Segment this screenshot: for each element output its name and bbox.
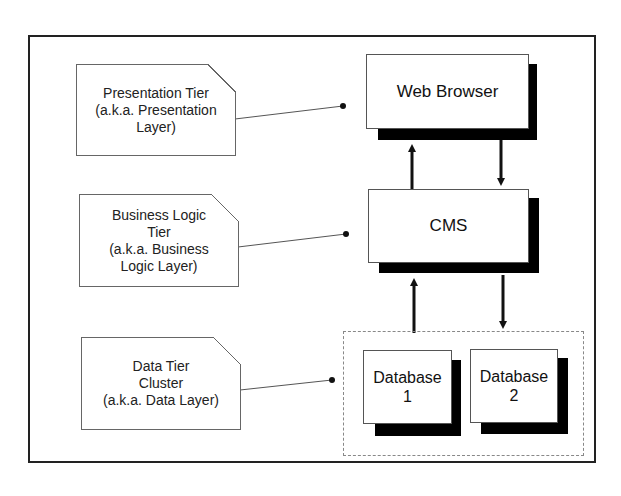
- database1-number: 1: [373, 387, 442, 406]
- database2-label: Database: [480, 367, 549, 386]
- business-connector: [238, 234, 346, 247]
- database2-box: Database 2: [470, 349, 558, 423]
- cms-label: CMS: [430, 216, 468, 236]
- cms-box: CMS: [368, 189, 529, 263]
- database1-box: Database 1: [363, 350, 452, 424]
- note-line: Layer): [95, 119, 216, 136]
- note-line: Presentation Tier: [95, 85, 216, 102]
- note-line: Data Tier: [103, 358, 219, 375]
- business-logic-tier-note: Business Logic Tier (a.k.a. Business Log…: [79, 194, 239, 287]
- presentation-connector: [235, 106, 343, 119]
- note-line: (a.k.a. Presentation: [95, 102, 216, 119]
- web-browser-label: Web Browser: [397, 82, 499, 102]
- note-line: Tier: [109, 224, 209, 241]
- note-line: Business Logic: [109, 207, 209, 224]
- data-connector: [240, 380, 332, 390]
- database2-number: 2: [480, 386, 549, 405]
- note-line: (a.k.a. Business: [109, 241, 209, 258]
- database1-label: Database: [373, 368, 442, 387]
- data-tier-note: Data Tier Cluster (a.k.a. Data Layer): [81, 337, 241, 430]
- note-line: Logic Layer): [109, 258, 209, 275]
- web-browser-box: Web Browser: [366, 54, 529, 129]
- note-line: Cluster: [103, 375, 219, 392]
- presentation-tier-note: Presentation Tier (a.k.a. Presentation L…: [76, 64, 236, 156]
- note-line: (a.k.a. Data Layer): [103, 392, 219, 409]
